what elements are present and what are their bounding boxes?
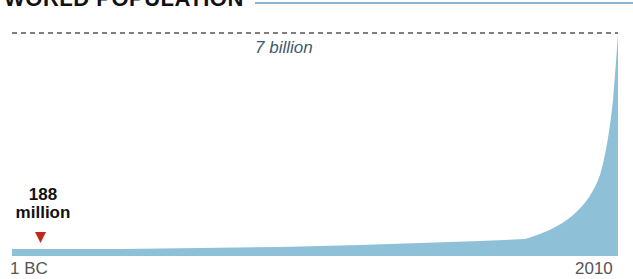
- x-axis-end-label: 2010: [575, 259, 613, 279]
- start-value-unit: million: [12, 204, 74, 222]
- down-triangle-icon: [35, 232, 46, 243]
- population-area-chart: [0, 0, 633, 279]
- start-value-number: 188: [12, 186, 74, 204]
- reference-label: 7 billion: [255, 38, 313, 58]
- x-axis-start-label: 1 BC: [10, 259, 48, 279]
- start-value-annotation: 188 million: [12, 186, 74, 222]
- population-area: [12, 33, 618, 256]
